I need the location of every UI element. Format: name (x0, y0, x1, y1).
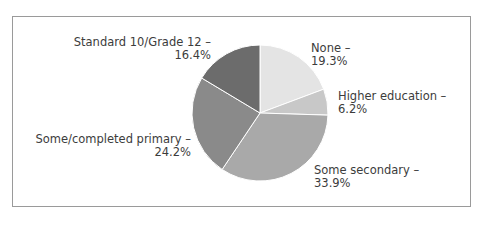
label-some-secondary: Some secondary – 33.9% (314, 164, 419, 190)
label-none: None – 19.3% (311, 42, 350, 68)
label-some-completed-primary: Some/completed primary – 24.2% (35, 133, 191, 159)
label-standard-10-grade-12: Standard 10/Grade 12 – 16.4% (74, 36, 211, 62)
label-higher-education: Higher education – 6.2% (338, 90, 446, 116)
